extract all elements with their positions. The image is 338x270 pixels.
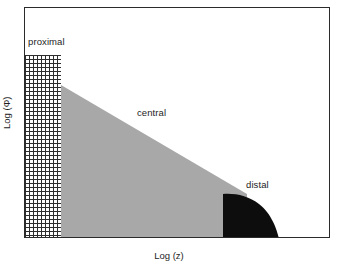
y-axis-title: Log (Φ) <box>2 83 12 143</box>
plot-frame <box>24 7 330 238</box>
region-label-central: central <box>137 108 166 118</box>
region-label-distal: distal <box>246 180 269 190</box>
distal-lobe-shape <box>223 8 330 238</box>
region-proximal <box>25 55 61 238</box>
figure-area: proximal central distal Log (Φ) Log (z) <box>0 0 338 270</box>
region-distal <box>223 8 330 238</box>
x-axis-title: Log (z) <box>0 251 338 261</box>
region-label-proximal: proximal <box>28 37 65 47</box>
